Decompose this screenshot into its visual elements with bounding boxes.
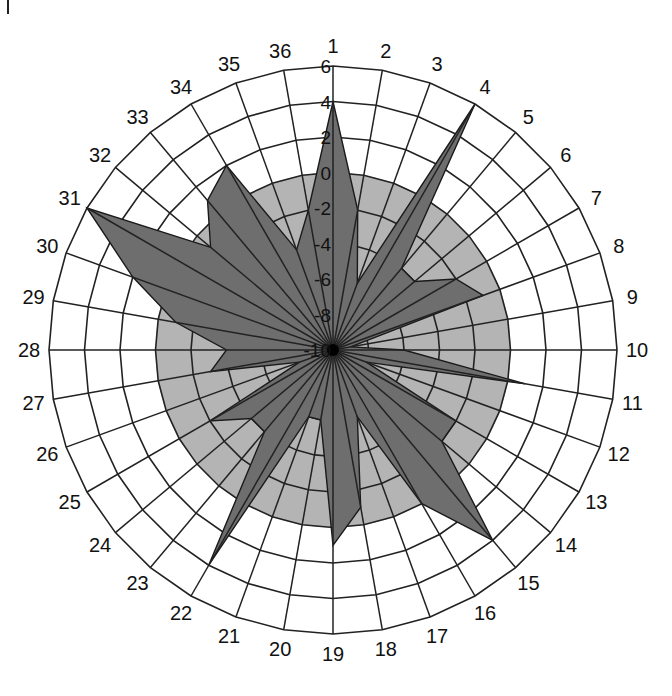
radial-tick-label: 6 [320,56,331,77]
spoke-label: 25 [59,491,81,513]
spoke-label: 12 [608,443,630,465]
spoke-label: 28 [18,339,40,361]
radial-tick-label: -2 [314,198,331,219]
spoke-label: 15 [517,572,539,594]
spoke-label: 7 [591,187,602,209]
spoke-label: 14 [555,534,577,556]
spoke-label: 33 [126,106,148,128]
spoke-label: 22 [170,602,192,624]
grid-spokes [49,66,617,634]
spoke-label: 30 [36,235,58,257]
spoke-label: 13 [585,491,607,513]
radial-tick-label: 4 [320,92,331,113]
spoke-label: 21 [218,625,240,647]
radial-tick-label: -8 [314,305,331,326]
spoke-label: 26 [36,443,58,465]
spoke-label: 23 [126,572,148,594]
spoke-label: 8 [613,235,624,257]
spoke-label: 31 [59,187,81,209]
radial-tick-label: 2 [320,127,331,148]
spoke-label: 27 [22,392,44,414]
spoke-label: 6 [560,144,571,166]
radial-tick-label: -10 [304,340,331,361]
spoke-label: 29 [22,286,44,308]
radial-tick-label: -6 [314,269,331,290]
spoke-label: 24 [89,534,111,556]
spoke-label: 5 [523,106,534,128]
spoke-label: 34 [170,76,192,98]
spoke-label: 9 [627,286,638,308]
radar-chart: -10-8-6-4-20246 123456789101112131415161… [0,0,672,696]
spoke-label: 35 [218,53,240,75]
spoke-label: 2 [380,40,391,62]
radial-tick-label: -4 [314,234,331,255]
spoke-label: 11 [622,392,643,414]
spoke-label: 10 [626,339,648,361]
spoke-label: 1 [327,35,338,57]
spoke-label: 36 [269,40,291,62]
spoke-label: 16 [474,602,496,624]
spoke-label: 3 [431,53,442,75]
spoke-label: 17 [426,625,448,647]
spoke-label: 32 [89,144,111,166]
spoke-label: 19 [322,643,344,665]
radial-tick-label: 0 [320,163,331,184]
spoke-label: 4 [479,76,490,98]
spoke-label: 20 [269,638,291,660]
spoke-label: 18 [375,638,397,660]
